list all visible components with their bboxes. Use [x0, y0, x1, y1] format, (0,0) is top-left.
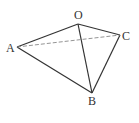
labels-group: OACB [6, 8, 130, 108]
edge-ob [78, 24, 92, 93]
vertex-label-a: A [6, 41, 15, 55]
edge-ab [17, 47, 92, 93]
diagram-svg: OACB [0, 0, 139, 123]
edge-cb [92, 35, 120, 93]
vertex-label-c: C [122, 29, 130, 43]
vertex-label-o: O [74, 8, 83, 22]
vertex-label-b: B [88, 94, 96, 108]
edges-group [17, 24, 120, 93]
edge-oc [78, 24, 120, 35]
tetrahedron-diagram: OACB [0, 0, 139, 123]
